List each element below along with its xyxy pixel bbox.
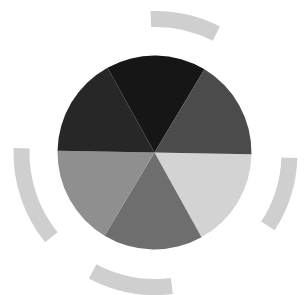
arc-right xyxy=(261,157,297,230)
pie-chart xyxy=(58,55,252,249)
arc-bottom xyxy=(89,264,173,295)
pie-diagram xyxy=(0,0,305,295)
arc-left xyxy=(13,148,57,242)
arc-top xyxy=(151,11,220,41)
